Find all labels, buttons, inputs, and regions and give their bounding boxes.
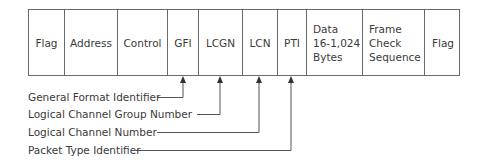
- arrow-up-icon: [256, 76, 262, 83]
- callout-label-pti: Packet Type Identifier: [28, 144, 140, 156]
- callout-label-lcgn: Logical Channel Group Number: [28, 108, 192, 120]
- callout-line-lcn: [157, 80, 259, 133]
- arrow-up-icon: [180, 76, 186, 83]
- arrow-up-icon: [217, 76, 223, 83]
- callout-label-lcn: Logical Channel Number: [28, 126, 157, 138]
- callout-lines: [0, 0, 482, 166]
- callout-line-lcgn: [197, 80, 220, 115]
- callout-line-gfi: [157, 80, 183, 98]
- arrow-up-icon: [288, 76, 294, 83]
- callout-label-gfi: General Format Identifier: [28, 91, 160, 103]
